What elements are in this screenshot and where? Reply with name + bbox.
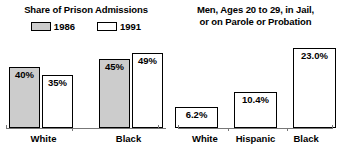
- white-swatch-icon: [97, 22, 117, 31]
- right-chart-title-line1: Men, Ages 20 to 29, in Jail,: [172, 4, 339, 16]
- gray-swatch-icon: [31, 22, 51, 31]
- right-chart-title: Men, Ages 20 to 29, in Jail, or on Parol…: [172, 0, 339, 27]
- right-axis-line: [178, 128, 333, 129]
- left-chart-title: Share of Prison Admissions: [0, 0, 172, 16]
- bar-black-1991: 49%: [132, 53, 163, 128]
- category-label-black: Black: [99, 133, 158, 144]
- left-chart-legend: 1986 1991: [0, 21, 172, 33]
- category-label-white: White: [190, 133, 220, 144]
- left-category-labels: White Black: [0, 133, 172, 144]
- axis-tick: [6, 125, 7, 129]
- bar-black-1986: 45%: [99, 59, 130, 128]
- bar-value-label: 23.0%: [301, 49, 328, 61]
- legend-label-1991: 1991: [120, 22, 141, 32]
- bar-group-white: 40% 35%: [9, 67, 73, 128]
- axis-tick: [158, 125, 159, 129]
- legend-entry-1991: 1991: [97, 22, 141, 32]
- right-chart-title-line2: or on Parole or Probation: [172, 16, 339, 28]
- axis-tick: [178, 125, 179, 129]
- right-plot-area: 6.2% 10.4% 23.0%: [172, 38, 339, 128]
- bar-hispanic: 10.4%: [234, 92, 277, 128]
- bar-value-label: 45%: [105, 60, 124, 72]
- bar-white-1991: 35%: [42, 75, 73, 128]
- prison-admissions-panel: Share of Prison Admissions 1986 1991 40%…: [0, 0, 172, 157]
- right-bars-row: 6.2% 10.4% 23.0%: [172, 38, 339, 128]
- category-label-black: Black: [291, 133, 321, 144]
- right-category-labels: White Hispanic Black: [172, 133, 339, 144]
- bar-white: 6.2%: [175, 107, 218, 128]
- bar-value-label: 40%: [15, 68, 34, 80]
- bar-value-label: 49%: [138, 54, 157, 66]
- bar-group-white: 6.2%: [175, 107, 218, 128]
- bar-value-label: 35%: [48, 76, 67, 88]
- axis-tick: [287, 128, 288, 131]
- bar-value-label: 6.2%: [186, 108, 208, 120]
- bar-group-black: 45% 49%: [99, 53, 163, 128]
- legend-entry-1986: 1986: [31, 22, 75, 32]
- two-panel-bar-chart-figure: Share of Prison Admissions 1986 1991 40%…: [0, 0, 339, 157]
- axis-tick: [332, 125, 333, 129]
- men-ages-20-29-panel: Men, Ages 20 to 29, in Jail, or on Parol…: [172, 0, 339, 157]
- bar-white-1986: 40%: [9, 67, 40, 128]
- left-axis-line: [6, 128, 166, 129]
- left-plot-area: 40% 35% 45% 49%: [0, 44, 172, 128]
- category-label-white: White: [14, 133, 73, 144]
- bar-group-hispanic: 10.4%: [234, 92, 277, 128]
- legend-label-1986: 1986: [54, 22, 75, 32]
- left-bars-row: 40% 35% 45% 49%: [0, 44, 172, 128]
- axis-tick: [72, 128, 73, 131]
- bar-value-label: 10.4%: [242, 93, 269, 105]
- bar-black: 23.0%: [293, 48, 336, 128]
- bar-group-black: 23.0%: [293, 48, 336, 128]
- category-label-hispanic: Hispanic: [236, 133, 276, 144]
- axis-tick: [228, 128, 229, 131]
